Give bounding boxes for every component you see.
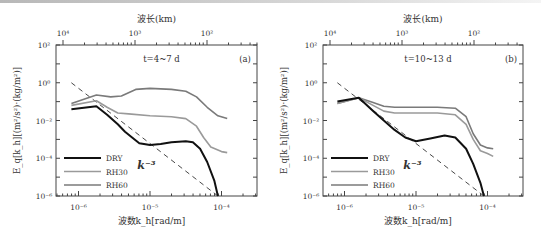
slope-label: k⁻³ (137, 159, 155, 172)
slope-label: k⁻³ (403, 159, 421, 172)
top-tick-label: 10² (201, 29, 214, 38)
time-annotation: t=10~13 d (404, 54, 452, 64)
panel-label: (b) (505, 54, 517, 64)
top-tick-label: 10² (468, 29, 481, 38)
y-tick-label: 10⁻⁴ (303, 154, 320, 163)
panel-label: (a) (239, 54, 251, 64)
plot-frame (56, 45, 257, 196)
series-line-rh60 (71, 88, 227, 118)
y-tick-label: 10⁰ (305, 79, 318, 88)
legend-label-dry: DRY (373, 154, 390, 163)
y-axis-title: E_q[k_h][(m²/s²)·(kg/m²)] (12, 67, 23, 174)
y-tick-label: 10² (38, 41, 51, 50)
x-tick-label: 10⁻⁶ (336, 203, 353, 212)
legend-label-rh60: RH60 (373, 181, 395, 190)
top-tick-label: 10⁴ (324, 29, 337, 38)
legend-label-dry: DRY (106, 154, 123, 163)
legend-label-rh30: RH30 (106, 168, 128, 177)
chart-panel-a: 10²10⁰10⁻²10⁻⁴10⁻⁶10⁻⁶10⁻⁵10⁻⁴10⁴10³10²波… (12, 13, 257, 227)
x-tick-label: 10⁻⁴ (479, 203, 496, 212)
x-tick-label: 10⁻⁵ (408, 203, 425, 212)
y-tick-label: 10⁻² (303, 117, 320, 126)
x-tick-label: 10⁻⁵ (142, 203, 159, 212)
time-annotation: t=4~7 d (143, 54, 180, 64)
y-tick-label: 10⁻⁴ (36, 154, 53, 163)
y-tick-label: 10⁰ (38, 79, 51, 88)
y-tick-label: 10⁻⁶ (303, 192, 320, 201)
y-tick-label: 10⁻⁶ (36, 192, 53, 201)
y-tick-label: 10⁻² (36, 117, 53, 126)
legend: DRYRH30RH60 (331, 154, 395, 190)
y-axis-title: E_q[k_h][(m²/s²)·(kg/m²)] (279, 67, 290, 174)
x-tick-label: 10⁻⁶ (70, 203, 87, 212)
plot-frame (323, 45, 523, 196)
x-axis-title: 波数k_h[rad/m] (118, 215, 186, 227)
top-axis-title: 波长(km) (403, 13, 442, 24)
top-tick-label: 10³ (396, 29, 409, 38)
k-minus-3-reference-line (71, 83, 218, 196)
series-line-dry (71, 106, 218, 196)
x-tick-label: 10⁻⁴ (213, 203, 230, 212)
top-tick-label: 10⁴ (57, 29, 70, 38)
chart-panel-b: 10²10⁰10⁻²10⁻⁴10⁻⁶10⁻⁶10⁻⁵10⁻⁴10⁴10³10²波… (279, 13, 523, 227)
legend: DRYRH30RH60 (64, 154, 128, 190)
y-tick-label: 10² (305, 41, 318, 50)
legend-label-rh60: RH60 (106, 181, 128, 190)
legend-label-rh30: RH30 (373, 168, 395, 177)
top-tick-label: 10³ (129, 29, 142, 38)
figure: 10²10⁰10⁻²10⁻⁴10⁻⁶10⁻⁶10⁻⁵10⁻⁴10⁴10³10²波… (0, 0, 541, 240)
x-axis-title: 波数k_h[rad/m] (384, 215, 452, 227)
top-axis-title: 波长(km) (137, 13, 176, 24)
